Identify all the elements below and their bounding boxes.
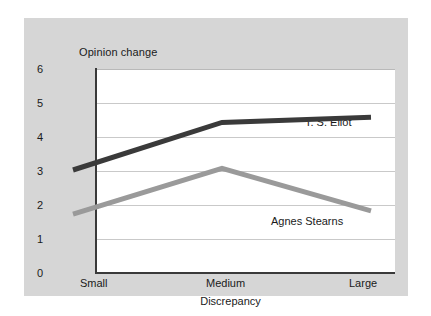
chart-figure: Opinion change 6 5 4 3 2 1 0 Small Mediu… <box>0 0 431 316</box>
series-lines <box>0 0 431 316</box>
line-series-eliot <box>73 117 371 170</box>
line-series-stearns <box>73 168 371 214</box>
